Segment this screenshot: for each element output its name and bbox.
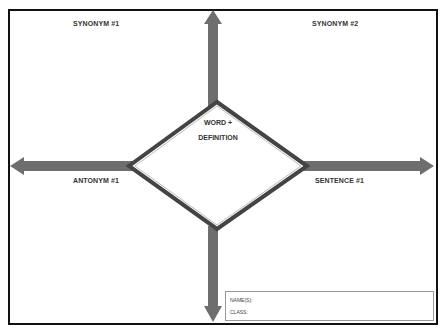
arrow-up-icon (204, 10, 222, 106)
names-field-label: NAME(S): (230, 297, 253, 303)
definition-label: DEFINITION (195, 134, 241, 141)
word-label: WORD + (200, 119, 236, 126)
arrow-left-icon (10, 157, 134, 175)
info-box: NAME(S): CLASS: (225, 291, 434, 321)
sentence-1-label: SENTENCE #1 (315, 177, 364, 184)
antonym-1-label: ANTONYM #1 (73, 177, 119, 184)
arrow-right-icon (302, 157, 434, 175)
vocabulary-diagram (0, 0, 443, 329)
arrow-down-icon (204, 226, 222, 322)
class-field-label: CLASS: (230, 309, 248, 315)
synonym-2-label: SYNONYM #2 (312, 20, 358, 27)
synonym-1-label: SYNONYM #1 (73, 20, 119, 27)
